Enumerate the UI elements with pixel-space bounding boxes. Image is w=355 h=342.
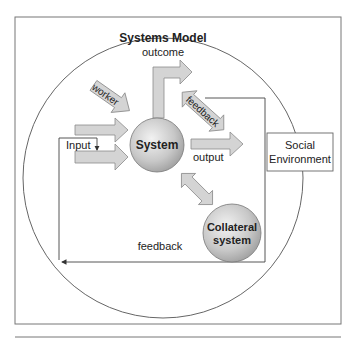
feedback-double-arrow: feedback	[175, 84, 231, 138]
diagram-title: Systems Model	[119, 31, 206, 45]
system-collateral-arrow	[174, 166, 219, 211]
social-label-line2: Environment	[269, 153, 331, 165]
outcome-arrow	[153, 60, 192, 118]
social-environment-box: Social Environment	[267, 133, 333, 171]
social-label-line1: Social	[285, 139, 315, 151]
system-label: System	[136, 138, 179, 152]
system-node: System	[130, 118, 184, 172]
feedback-bottom-label: feedback	[138, 240, 183, 252]
collateral-system-node: Collateral system	[203, 204, 261, 262]
worker-label: worker	[89, 81, 121, 108]
systems-model-diagram: Systems Model outcome worker Input feedb…	[0, 0, 355, 342]
collateral-label-line2: system	[213, 234, 251, 246]
worker-arrow: worker	[86, 75, 137, 120]
outcome-label: outcome	[142, 46, 184, 58]
feedback-diagonal-label: feedback	[184, 94, 222, 130]
output-label: output	[193, 151, 224, 163]
collateral-label-line1: Collateral	[207, 221, 257, 233]
input-label: Input	[66, 139, 90, 151]
